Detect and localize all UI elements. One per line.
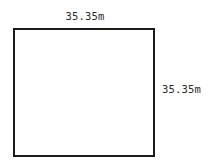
diagram-canvas: 35.35m 35.35m xyxy=(0,0,220,167)
dimension-label-right: 35.35m xyxy=(162,83,201,95)
square-shape xyxy=(13,28,155,157)
dimension-label-top: 35.35m xyxy=(0,10,170,22)
